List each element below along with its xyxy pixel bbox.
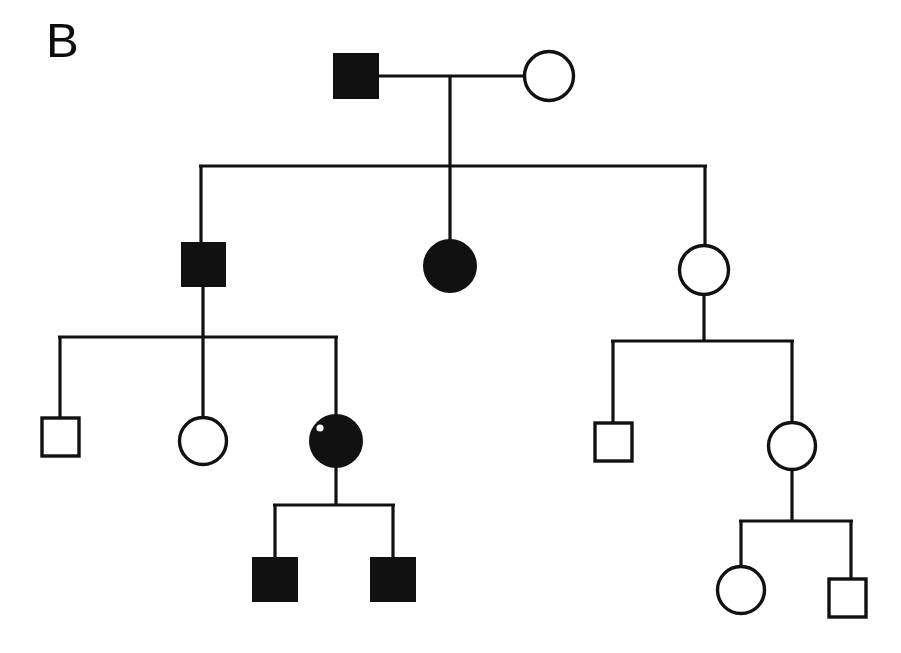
scan-speck-artifact xyxy=(316,424,323,431)
individual-IV-2-affected-male[interactable] xyxy=(371,558,415,601)
individual-III-3-affected-female[interactable] xyxy=(310,415,362,467)
individual-II-1-affected-male[interactable] xyxy=(182,243,225,286)
individual-II-3-unaffected-female[interactable] xyxy=(680,246,729,295)
generation-3-right-group xyxy=(595,341,816,522)
individual-II-2-affected-female[interactable] xyxy=(424,240,476,292)
individual-III-5-unaffected-female[interactable] xyxy=(769,423,816,470)
generation-1-group xyxy=(334,52,574,168)
individual-IV-3-unaffected-female[interactable] xyxy=(718,567,765,614)
pedigree-figure: B xyxy=(0,0,901,653)
individual-III-4-unaffected-male[interactable] xyxy=(595,423,632,461)
individual-III-1-unaffected-male[interactable] xyxy=(42,418,79,456)
generation-4-right-group xyxy=(718,521,867,617)
individual-III-2-unaffected-female[interactable] xyxy=(180,418,227,465)
generation-3-left-group xyxy=(42,337,362,506)
individual-I-2-unaffected-female[interactable] xyxy=(525,52,574,101)
individual-IV-4-unaffected-male[interactable] xyxy=(829,579,866,617)
generation-4-left-group xyxy=(253,505,415,601)
generation-2-group xyxy=(182,166,729,342)
individual-I-1-affected-male[interactable] xyxy=(334,54,378,98)
individual-IV-1-affected-male[interactable] xyxy=(253,558,297,601)
pedigree-diagram-canvas xyxy=(0,0,901,653)
